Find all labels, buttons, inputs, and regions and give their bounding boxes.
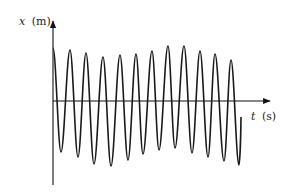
- y-axis-unit: (m): [32, 15, 51, 28]
- x-axis-variable: t: [251, 110, 256, 123]
- x-axis-unit: (s): [262, 110, 276, 123]
- y-axis-label: x (m): [19, 15, 51, 28]
- displacement-curve: [53, 46, 241, 166]
- oscillation-chart: x (m) t (s): [0, 0, 283, 193]
- x-axis-label: t (s): [251, 110, 276, 123]
- y-axis-variable: x: [19, 15, 26, 28]
